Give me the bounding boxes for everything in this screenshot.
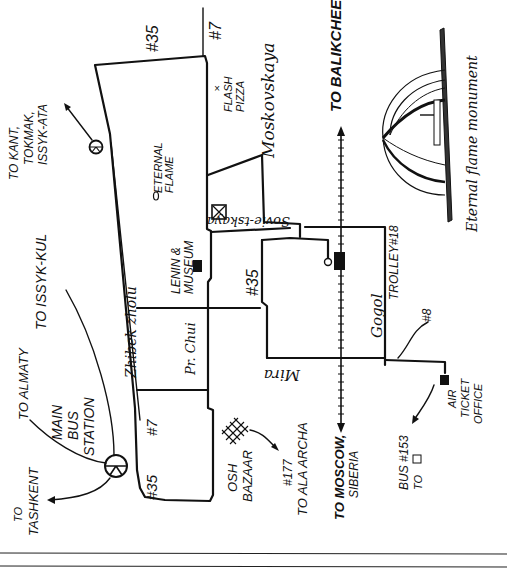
eternal-flame-monument-illustration (383, 28, 452, 222)
airport-icon (413, 455, 421, 463)
ala-archa-arrow (250, 430, 276, 448)
border-line-bottom (0, 566, 507, 567)
kant-label: TO KANT, (7, 126, 21, 180)
pizza-label: PIZZA (234, 81, 246, 112)
issyk-kul-label: TO ISSYK-KUL (33, 234, 49, 330)
route-35-bottom-label: #35 (143, 474, 160, 500)
route-8-label: #8 (420, 308, 434, 322)
balikchee-label: TO BALIKCHEE (327, 0, 344, 112)
air-ticket-office-icon (440, 375, 449, 385)
route-8-curve (398, 322, 428, 358)
osh-label: OSH (225, 463, 240, 492)
bus-station-icon (105, 455, 127, 477)
route-7-top-label: #7 (207, 21, 224, 40)
station-label: STATION (81, 397, 97, 456)
tashkent-to-label: TO (12, 506, 24, 522)
museum-label: MUSEUM (182, 241, 196, 294)
osh-bazaar-icon (222, 418, 248, 444)
bazaar-label: BAZAAR (240, 450, 255, 502)
arrow-up-icon (337, 126, 345, 136)
sovietskaya-street (211, 227, 385, 365)
connector-street (262, 238, 328, 258)
main-label: MAIN (49, 404, 65, 440)
route-7-bottom-label: #7 (143, 419, 160, 436)
bus-153-to-label: TO (412, 474, 424, 490)
route-35-mid (262, 240, 267, 358)
arrow-icon (412, 415, 419, 424)
arrow-icon (64, 103, 71, 111)
tashkent-arrow (50, 478, 110, 500)
moskovskaya-label: Moskovskaya (258, 43, 278, 159)
bus-153-label: BUS #153 (397, 435, 411, 490)
route-35-mid-label: #35 (244, 269, 261, 296)
arrow-icon (47, 496, 55, 504)
bus-153-arrow (414, 385, 434, 420)
pr-chui-label: Pr. Chui (183, 322, 198, 376)
bus-label: BUS (65, 411, 81, 440)
sovietskaya-label: Sovie-tskaya (207, 214, 290, 229)
flash-label: FLASH (222, 76, 234, 112)
kant-arrow (66, 106, 92, 140)
stop-circle-icon (325, 259, 332, 266)
border-line-top (0, 553, 507, 554)
pizza-x-icon: × (214, 83, 220, 94)
ala-archa-route-label: #177 (281, 458, 295, 486)
ala-archa-label: TO ALA ARCHA (295, 422, 310, 516)
air-label: AIR (446, 390, 458, 409)
kant-bus-icon (90, 141, 103, 154)
flame-label: FLAME (163, 156, 175, 193)
arrow-down-icon (337, 423, 345, 433)
train-station-icon (334, 252, 345, 270)
gogol-label: Gogol (368, 293, 386, 338)
route-35-top-label: #35 (144, 25, 161, 52)
tokmak-label: TOKMAK, (22, 111, 36, 165)
siberia-label: SIBERIA (347, 451, 361, 498)
issyk-ata-label: ISSYK-ATA (36, 104, 50, 165)
city-map: × #35 #7 FLASH PIZZA (0, 0, 507, 570)
lenin-label: LENIN & (169, 247, 183, 294)
mira-label: Mira (264, 366, 301, 384)
office-label: OFFICE (472, 383, 484, 424)
route-8 (385, 360, 445, 373)
almaty-label: TO ALMATY (16, 347, 31, 420)
trolley-18-label: TROLLEY#18 (387, 225, 401, 300)
zhibek-zholu-label: Zhibek zholu (123, 286, 139, 379)
moscow-label: TO MOSCOW, (332, 435, 347, 520)
tashkent-label: TASHKENT (26, 467, 41, 536)
monument-caption: Eternal flame monument (464, 55, 480, 233)
ticket-label: TICKET (459, 378, 471, 418)
